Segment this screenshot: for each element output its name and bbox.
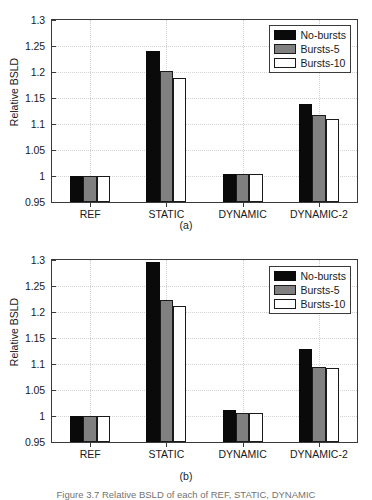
legend-label-bursts-5: Bursts-5 xyxy=(300,285,339,296)
bar-ref-bursts-10 xyxy=(97,176,110,202)
y-axis-tick xyxy=(52,202,56,203)
y-axis-label: 1.1 xyxy=(31,358,45,370)
panel-caption-a: (a) xyxy=(0,219,372,231)
legend-swatch-bursts-10 xyxy=(274,299,296,309)
y-axis-label: 1.25 xyxy=(25,280,45,292)
y-axis-label: 1.3 xyxy=(31,254,45,266)
legend-item-bursts-5: Bursts-5 xyxy=(274,43,346,55)
y-axis-tick xyxy=(52,364,56,365)
y-axis-tick xyxy=(52,286,56,287)
chart-panel-a: Relative BSLD 0.9511.051.11.151.21.251.3… xyxy=(0,0,372,240)
y-axis-label: 0.95 xyxy=(25,196,45,208)
y-axis-label: 1.2 xyxy=(31,66,45,78)
y-axis-tick xyxy=(52,260,56,261)
legend-a: No-bursts Bursts-5 Bursts-10 xyxy=(269,25,351,73)
legend-swatch-bursts-5 xyxy=(274,285,296,295)
legend-swatch-bursts-5 xyxy=(274,44,296,54)
bar-static-bursts-5 xyxy=(160,71,173,202)
x-gridline xyxy=(90,260,91,442)
x-axis-tick xyxy=(243,202,244,207)
x-axis-tick xyxy=(90,442,91,447)
panel-caption-b: (b) xyxy=(0,470,372,482)
bar-dynamic-2-bursts-10 xyxy=(326,368,339,442)
y-axis-tick xyxy=(52,176,56,177)
bar-static-bursts-10 xyxy=(173,306,186,442)
figure-container: Relative BSLD 0.9511.051.11.151.21.251.3… xyxy=(0,0,372,500)
legend-item-bursts-5: Bursts-5 xyxy=(274,284,346,296)
y-axis-tick xyxy=(52,338,56,339)
x-axis-label-static: STATIC xyxy=(148,448,184,460)
y-axis-tick xyxy=(52,46,56,47)
x-axis-tick xyxy=(319,442,320,447)
y-axis-tick xyxy=(52,312,56,313)
chart-panel-b: Relative BSLD 0.9511.051.11.151.21.251.3… xyxy=(0,240,372,485)
legend-label-no-bursts: No-bursts xyxy=(300,30,346,41)
legend-swatch-bursts-10 xyxy=(274,58,296,68)
bar-dynamic-no-bursts xyxy=(223,410,236,442)
bar-dynamic-2-bursts-10 xyxy=(326,119,339,202)
y-axis-tick xyxy=(52,442,56,443)
y-axis-tick xyxy=(52,20,56,21)
bar-dynamic-2-no-bursts xyxy=(299,104,312,202)
legend-label-bursts-10: Bursts-10 xyxy=(300,58,345,69)
bar-dynamic-bursts-10 xyxy=(249,174,262,202)
figure-caption: Figure 3.7 Relative BSLD of each of REF,… xyxy=(0,489,372,500)
y-axis-label: 1.3 xyxy=(31,14,45,26)
bar-ref-bursts-5 xyxy=(83,176,96,202)
y-axis-tick xyxy=(52,390,56,391)
x-axis-label-dynamic: DYNAMIC xyxy=(218,448,266,460)
bar-dynamic-2-bursts-5 xyxy=(312,367,325,442)
bar-ref-no-bursts xyxy=(70,416,83,442)
legend-item-no-bursts: No-bursts xyxy=(274,270,346,282)
plot-area-b: 0.9511.051.11.151.21.251.3REFSTATICDYNAM… xyxy=(51,259,358,443)
y-axis-label: 1.2 xyxy=(31,306,45,318)
x-axis-tick xyxy=(243,442,244,447)
legend-swatch-no-bursts xyxy=(274,271,296,281)
plot-area-a: 0.9511.051.11.151.21.251.3REFSTATICDYNAM… xyxy=(51,19,358,203)
y-axis-tick xyxy=(52,72,56,73)
y-axis-label: 1 xyxy=(39,170,45,182)
bar-static-no-bursts xyxy=(146,51,159,202)
legend-label-bursts-10: Bursts-10 xyxy=(300,299,345,310)
bar-dynamic-no-bursts xyxy=(223,174,236,202)
legend-label-no-bursts: No-bursts xyxy=(300,271,346,282)
bar-dynamic-bursts-5 xyxy=(236,413,249,442)
x-gridline xyxy=(90,20,91,202)
y-axis-tick xyxy=(52,124,56,125)
bar-ref-bursts-5 xyxy=(83,416,96,442)
bar-dynamic-2-bursts-5 xyxy=(312,115,325,202)
legend-swatch-no-bursts xyxy=(274,30,296,40)
y-axis-tick xyxy=(52,416,56,417)
y-axis-label: 1.1 xyxy=(31,118,45,130)
x-axis-tick xyxy=(166,442,167,447)
legend-item-bursts-10: Bursts-10 xyxy=(274,57,346,69)
y-axis-label: 1.15 xyxy=(25,332,45,344)
x-axis-label-ref: REF xyxy=(80,448,101,460)
legend-b: No-bursts Bursts-5 Bursts-10 xyxy=(269,266,351,314)
y-gridline xyxy=(52,98,357,99)
y-axis-label: 1.05 xyxy=(25,144,45,156)
y-axis-label: 1.05 xyxy=(25,384,45,396)
bar-static-bursts-5 xyxy=(160,300,173,442)
y-gridline xyxy=(52,338,357,339)
x-axis-label-dynamic-2: DYNAMIC-2 xyxy=(290,448,348,460)
x-axis-tick xyxy=(166,202,167,207)
y-axis-title-a: Relative BSLD xyxy=(8,52,20,132)
bar-dynamic-bursts-10 xyxy=(249,413,262,442)
y-axis-label: 1 xyxy=(39,410,45,422)
y-axis-tick xyxy=(52,98,56,99)
y-axis-label: 1.25 xyxy=(25,40,45,52)
bar-static-no-bursts xyxy=(146,262,159,442)
legend-item-bursts-10: Bursts-10 xyxy=(274,298,346,310)
y-axis-tick xyxy=(52,150,56,151)
legend-label-bursts-5: Bursts-5 xyxy=(300,44,339,55)
x-axis-tick xyxy=(319,202,320,207)
bar-dynamic-2-no-bursts xyxy=(299,349,312,442)
bar-static-bursts-10 xyxy=(173,78,186,202)
y-axis-label: 1.15 xyxy=(25,92,45,104)
bar-dynamic-bursts-5 xyxy=(236,174,249,202)
bar-ref-no-bursts xyxy=(70,176,83,202)
legend-item-no-bursts: No-bursts xyxy=(274,29,346,41)
y-axis-label: 0.95 xyxy=(25,436,45,448)
x-axis-tick xyxy=(90,202,91,207)
